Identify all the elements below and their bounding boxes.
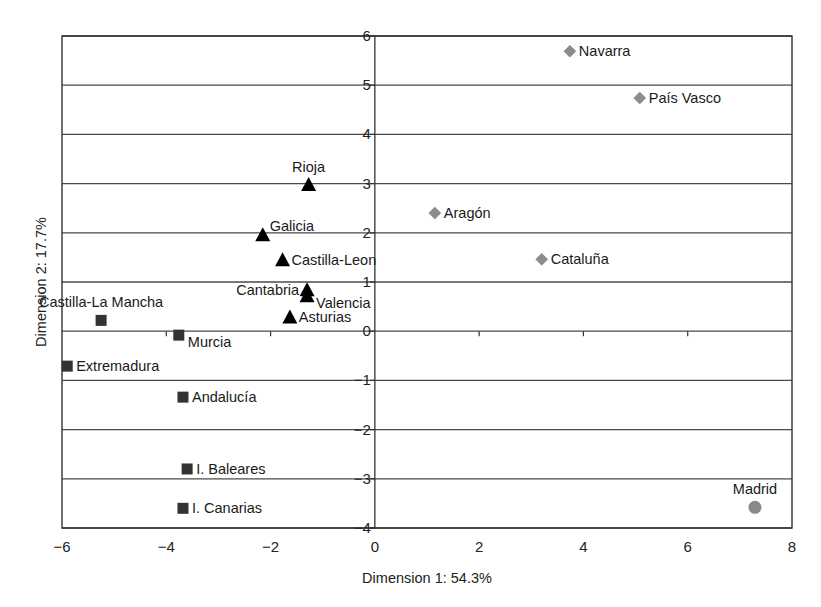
point-label: Madrid [733, 481, 777, 497]
y-tick-label: 0 [363, 322, 371, 339]
data-point: I. Canarias [177, 500, 262, 516]
point-label: Cataluña [551, 251, 610, 267]
data-point: Madrid [733, 481, 777, 514]
data-point: Castilla-Leon [275, 252, 376, 268]
diamond-marker-icon [564, 45, 576, 57]
square-marker-icon [182, 463, 193, 474]
point-label: Asturias [299, 309, 351, 325]
square-marker-icon [177, 392, 188, 403]
circle-marker-icon [748, 501, 761, 514]
y-axis-title: Dimension 2: 17.7% [33, 217, 49, 347]
square-marker-icon [177, 503, 188, 514]
point-label: Castilla-Leon [292, 252, 377, 268]
point-label: Aragón [444, 205, 491, 221]
data-point: I. Baleares [182, 461, 266, 477]
y-tick-label: 1 [363, 273, 371, 290]
square-marker-icon [96, 315, 107, 326]
group-diamond: NavarraPaís VascoAragónCataluña [429, 43, 721, 267]
data-point: Galicia [255, 218, 315, 241]
point-label: I. Baleares [196, 461, 265, 477]
point-label: Extremadura [76, 358, 160, 374]
diamond-marker-icon [429, 207, 441, 219]
tick-labels: −6−4−2024686543210−1−2−3−4 [53, 27, 796, 555]
x-tick-label: 0 [371, 538, 379, 555]
y-tick-label: 6 [363, 27, 371, 44]
data-point: Asturias [282, 309, 351, 325]
y-tick-label: 2 [363, 224, 371, 241]
point-label: Cantabria [236, 282, 300, 298]
x-tick-label: 6 [684, 538, 692, 555]
data-point: Rioja [292, 159, 326, 191]
x-tick-label: 2 [475, 538, 483, 555]
square-marker-icon [62, 361, 73, 372]
data-point: País Vasco [634, 90, 721, 106]
x-tick-label: −2 [262, 538, 279, 555]
data-point: Andalucía [177, 389, 257, 405]
y-tick-label: 4 [363, 125, 371, 142]
gridlines [62, 36, 792, 528]
data-point: Murcia [173, 330, 232, 351]
diamond-marker-icon [536, 253, 548, 265]
point-label: Murcia [188, 334, 232, 350]
x-tick-label: 4 [579, 538, 587, 555]
group-circle: Madrid [733, 481, 777, 514]
data-point: Cataluña [536, 251, 610, 267]
x-axis-title: Dimension 1: 54.3% [362, 570, 492, 586]
triangle-marker-icon [255, 227, 270, 241]
data-point: Aragón [429, 205, 491, 221]
data-points: NavarraPaís VascoAragónCataluñaRiojaGali… [39, 43, 777, 516]
point-label: I. Canarias [192, 500, 262, 516]
square-marker-icon [173, 330, 184, 341]
y-tick-label: 5 [363, 76, 371, 93]
triangle-marker-icon [282, 309, 297, 323]
data-point: Navarra [564, 43, 632, 59]
point-label: Andalucía [192, 389, 257, 405]
y-tick-label: −4 [354, 519, 371, 536]
point-label: Rioja [292, 159, 326, 175]
point-label: Galicia [270, 218, 315, 234]
data-point: Cantabria [236, 282, 314, 298]
y-tick-label: −2 [354, 421, 371, 438]
x-tick-label: 8 [788, 538, 796, 555]
scatter-chart: −6−4−2024686543210−1−2−3−4 NavarraPaís V… [0, 0, 821, 607]
y-tick-label: 3 [363, 175, 371, 192]
point-label: Navarra [579, 43, 632, 59]
group-square: Castilla-La ManchaMurciaExtremaduraAndal… [39, 294, 265, 516]
point-label: Castilla-La Mancha [39, 294, 164, 310]
triangle-marker-icon [275, 252, 290, 266]
x-tick-label: −6 [53, 538, 70, 555]
y-tick-label: −3 [354, 470, 371, 487]
point-label: País Vasco [649, 90, 721, 106]
diamond-marker-icon [634, 92, 646, 104]
x-tick-label: −4 [158, 538, 175, 555]
data-point: Extremadura [62, 358, 160, 374]
data-point: Castilla-La Mancha [39, 294, 164, 326]
y-tick-label: −1 [354, 371, 371, 388]
